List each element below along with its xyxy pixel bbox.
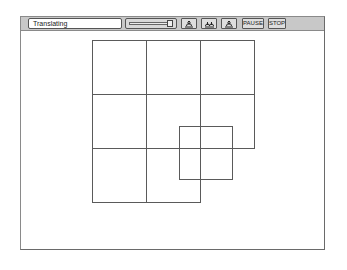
stop-button[interactable]: STOP	[268, 18, 286, 29]
rotate-arrow-icon	[184, 20, 194, 28]
rotate-both-button[interactable]	[201, 18, 217, 29]
grid-cell	[146, 40, 201, 95]
pause-button[interactable]: PAUSE	[242, 18, 264, 29]
grid-cell	[92, 148, 147, 203]
grid-cell	[92, 94, 147, 149]
slider-thumb[interactable]	[167, 20, 173, 27]
rotate-right-button[interactable]	[221, 18, 237, 29]
slider-track	[129, 22, 168, 25]
double-rotate-arrow-icon	[204, 20, 215, 28]
grid-cell	[92, 40, 147, 95]
rotate-left-button[interactable]	[181, 18, 197, 29]
status-field: Translating	[28, 18, 122, 29]
moving-square	[179, 126, 233, 180]
grid-cell	[200, 40, 255, 95]
rotate-arrow-icon	[224, 20, 234, 28]
speed-slider[interactable]	[125, 18, 177, 29]
toolbar: Translating	[21, 17, 324, 31]
